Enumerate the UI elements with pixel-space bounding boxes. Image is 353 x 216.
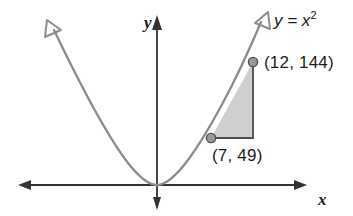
graph-canvas — [0, 0, 353, 216]
y-axis-label: y — [144, 14, 152, 31]
point-marker-lower — [206, 133, 215, 142]
point-marker-upper — [248, 57, 257, 66]
parabola-arrow-left-icon — [45, 20, 61, 37]
shaded-triangle-region — [211, 62, 253, 138]
graph-figure: y = x2 (12, 144) (7, 49) y x — [0, 0, 353, 216]
x-axis-arrow-right-icon — [294, 180, 307, 190]
curve-equation-label: y = x2 — [274, 12, 317, 29]
curve-equation-exponent: 2 — [310, 9, 316, 21]
x-axis-label: x — [318, 191, 327, 208]
y-axis-arrow-up-icon — [152, 15, 162, 30]
x-axis-arrow-left-icon — [18, 180, 31, 190]
y-axis-arrow-down-icon — [153, 197, 161, 210]
parabola-arrow-right-icon — [255, 12, 270, 29]
point-label-upper: (12, 144) — [264, 54, 334, 71]
point-label-lower: (7, 49) — [212, 147, 263, 164]
curve-equation-text: y = x — [274, 11, 310, 30]
y-axis — [152, 15, 162, 210]
